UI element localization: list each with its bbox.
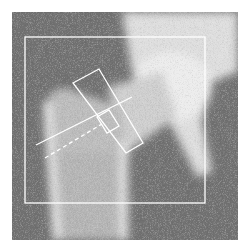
dxa-hip-scan: [12, 12, 238, 240]
scan-image: [12, 12, 238, 240]
